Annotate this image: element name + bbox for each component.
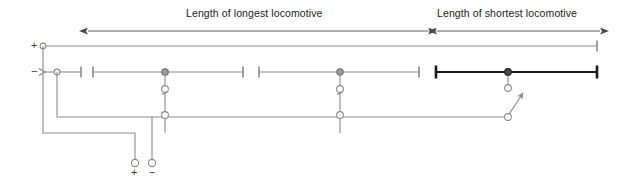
- switch-cluster-2[interactable]: [337, 69, 344, 133]
- dimension-label-shortest: Length of shortest locomotive: [437, 7, 577, 19]
- negative-rail-segment-4-bold: [436, 66, 597, 79]
- bottom-positive-terminal-label: +: [131, 166, 137, 178]
- diagram-canvas: Length of longest locomotive Length of s…: [0, 0, 619, 184]
- bottom-negative-terminal-label: −: [149, 166, 155, 178]
- wiring-schematic: [0, 0, 619, 184]
- positive-rail: [43, 41, 597, 52]
- top-positive-terminal-label: +: [31, 39, 37, 51]
- common-negative-bus: [57, 72, 508, 117]
- switch-cluster-3-open[interactable]: [505, 69, 523, 121]
- dimension-label-longest: Length of longest locomotive: [186, 7, 322, 19]
- negative-rail-segment-1: [57, 67, 81, 78]
- switch-cluster-1[interactable]: [162, 69, 169, 133]
- top-negative-terminal-label: −: [31, 65, 37, 77]
